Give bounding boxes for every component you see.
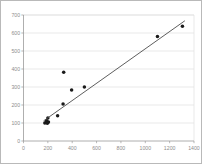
- x-tick-label: 200: [44, 145, 53, 151]
- x-tick-label: 400: [68, 145, 77, 151]
- x-tick-label: 600: [92, 145, 101, 151]
- data-point: [70, 88, 74, 92]
- x-tick-label: 800: [117, 145, 126, 151]
- data-point: [62, 70, 66, 74]
- x-tick-label: 1000: [140, 145, 152, 151]
- chart-plot-area: 0100200300400500600700020040060080010001…: [1, 1, 202, 164]
- x-tick-label: 1400: [188, 145, 200, 151]
- data-point: [56, 114, 60, 118]
- y-tick-label: 300: [11, 84, 20, 90]
- trend-line: [44, 21, 185, 121]
- y-tick-label: 600: [11, 30, 20, 36]
- data-point: [181, 25, 185, 29]
- data-point: [61, 102, 64, 106]
- x-tick-label: 1200: [164, 145, 176, 151]
- data-point: [156, 35, 160, 39]
- y-tick-label: 100: [11, 120, 20, 126]
- y-tick-label: 400: [11, 66, 20, 72]
- y-tick-label: 0: [17, 138, 20, 144]
- y-tick-label: 500: [11, 48, 20, 54]
- data-point: [47, 120, 51, 124]
- scatter-chart-figure: 0100200300400500600700020040060080010001…: [0, 0, 202, 164]
- y-tick-label: 200: [11, 102, 20, 108]
- y-tick-label: 700: [11, 12, 20, 18]
- x-tick-label: 0: [22, 145, 25, 151]
- data-point: [83, 85, 87, 89]
